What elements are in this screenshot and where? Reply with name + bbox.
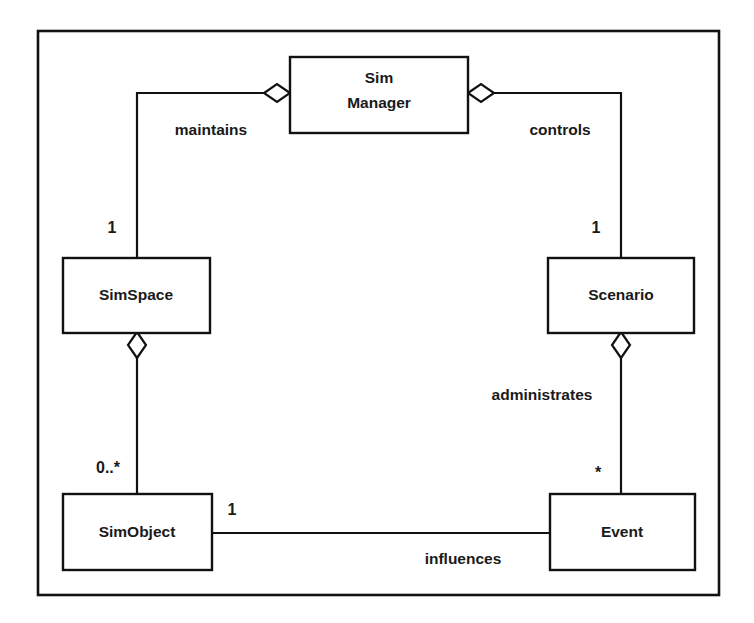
association-line-maintains <box>137 93 268 258</box>
association-label-controls: controls <box>529 121 590 138</box>
class-box-simspace[interactable]: SimSpace <box>63 258 210 333</box>
association-line-controls <box>492 93 621 258</box>
aggregation-diamond-controls <box>468 84 494 102</box>
class-box-event[interactable]: Event <box>550 494 695 570</box>
aggregation-diamond-maintains <box>264 84 290 102</box>
class-name-simspace: SimSpace <box>99 286 173 303</box>
class-name-scenario: Scenario <box>588 286 653 303</box>
association-label-maintains: maintains <box>175 121 247 138</box>
class-name-event: Event <box>601 523 643 540</box>
aggregation-diamond-administrates <box>612 332 630 358</box>
aggregation-diamond-simspace-simobject <box>128 332 146 358</box>
class-name-simobject: SimObject <box>99 523 176 540</box>
class-name-sim-manager-line1: Sim <box>365 69 393 86</box>
multiplicity-event: * <box>595 464 602 481</box>
class-box-simobject[interactable]: SimObject <box>63 494 212 570</box>
association-label-influences: influences <box>425 550 502 567</box>
class-name-sim-manager-line2: Manager <box>347 94 411 111</box>
multiplicity-scenario: 1 <box>592 219 601 236</box>
diagram-canvas: Sim Manager SimSpace Scenario SimObject … <box>0 0 754 623</box>
multiplicity-simobject-influences: 1 <box>228 501 237 518</box>
association-label-administrates: administrates <box>492 386 593 403</box>
uml-class-diagram: Sim Manager SimSpace Scenario SimObject … <box>0 0 754 623</box>
class-box-scenario[interactable]: Scenario <box>548 258 694 333</box>
multiplicity-simspace: 1 <box>108 219 117 236</box>
class-box-sim-manager[interactable]: Sim Manager <box>290 57 468 133</box>
multiplicity-simobject: 0..* <box>96 459 121 476</box>
